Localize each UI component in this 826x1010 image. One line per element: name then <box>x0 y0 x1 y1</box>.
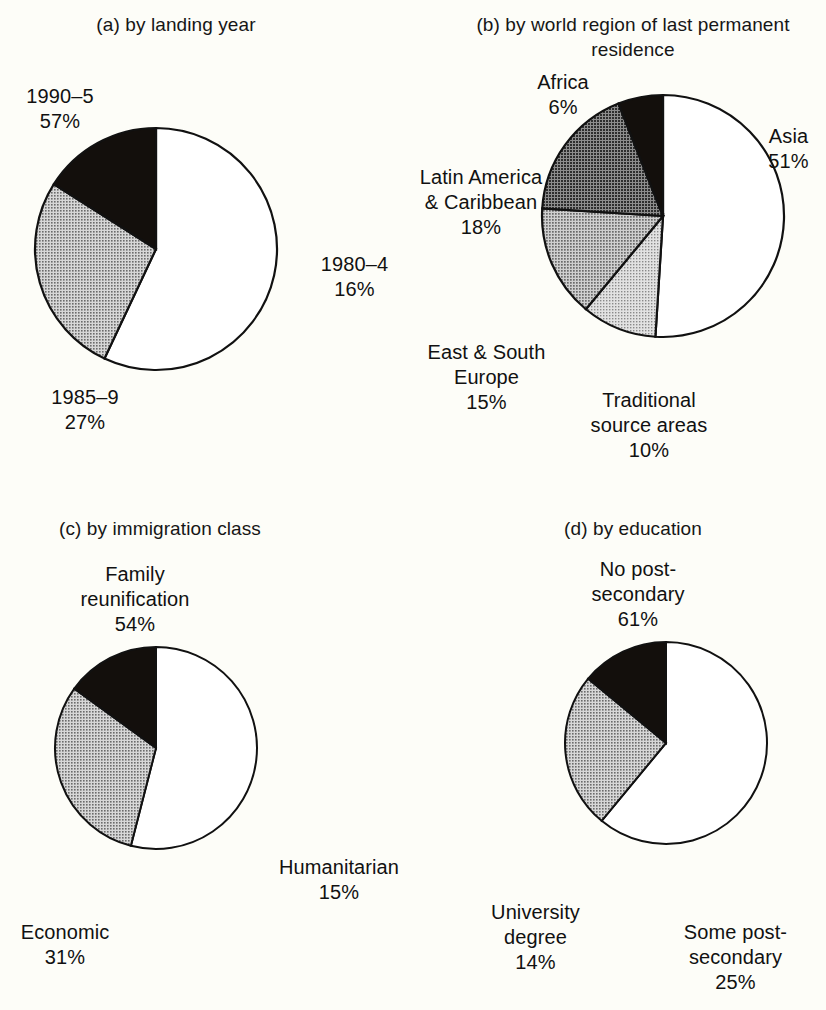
pie-c-svg <box>53 645 259 851</box>
pie-panel-landing-year: (a) by landing year 1990–5 57% 1980–4 16… <box>0 0 413 500</box>
pie-d-label-some-post-secondary: Some post- secondary 25% <box>653 920 818 995</box>
pie-c-label-humanitarian: Humanitarian 15% <box>265 855 413 905</box>
pie-panel-world-region: (b) by world region of last permanent re… <box>413 0 826 500</box>
panel-c-title: (c) by immigration class <box>20 516 300 541</box>
pie-d-label-university-degree: University degree 14% <box>458 900 613 975</box>
pie-chart-c <box>53 645 259 855</box>
pie-b-label-latin-america: Latin America & Caribbean 18% <box>407 165 555 240</box>
pie-b-label-europe: East & South Europe 15% <box>409 340 564 415</box>
pie-a-label-1985-9: 1985–9 27% <box>20 385 150 435</box>
pie-a-slices <box>35 128 277 370</box>
pie-b-svg <box>540 93 786 339</box>
pie-b-label-traditional: Traditional source areas 10% <box>568 388 730 463</box>
pie-a-label-1990-5: 1990–5 57% <box>0 84 120 134</box>
pie-a-svg <box>33 126 279 372</box>
pie-b-label-asia: Asia 51% <box>751 124 826 174</box>
pie-c-slices <box>55 647 257 849</box>
pie-chart-a <box>33 126 279 376</box>
pie-c-label-family-reunification: Family reunification 54% <box>50 562 220 637</box>
pie-b-label-africa: Africa 6% <box>503 70 623 120</box>
pie-d-slices <box>565 642 767 844</box>
pie-panel-education: (d) by education No post- secondary 61% … <box>413 500 826 1010</box>
panel-b-title: (b) by world region of last permanent re… <box>473 12 793 62</box>
pie-c-label-economic: Economic 31% <box>0 920 130 970</box>
panel-a-title: (a) by landing year <box>26 12 326 37</box>
pie-panel-immigration-class: (c) by immigration class Family reunific… <box>0 500 413 1010</box>
pie-b-slices <box>542 95 784 337</box>
pie-a-label-1980-4: 1980–4 16% <box>292 252 417 302</box>
pie-d-label-no-post-secondary: No post- secondary 61% <box>558 557 718 632</box>
pie-d-svg <box>563 640 769 846</box>
panel-d-title: (d) by education <box>523 516 743 541</box>
pie-chart-d <box>563 640 769 850</box>
pie-chart-b <box>540 93 786 343</box>
